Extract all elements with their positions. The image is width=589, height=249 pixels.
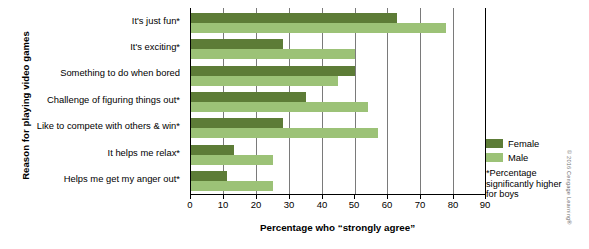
legend-label-female: Female [508,138,539,149]
category-label: It's exciting* [16,42,180,52]
legend-swatch-male-icon [486,153,503,162]
bar-male [191,155,273,165]
x-tick-label: 70 [405,199,435,210]
x-tick-label: 90 [470,199,500,210]
category-label: Something to do when bored [16,68,180,78]
bar-female [191,92,306,102]
gridline [322,8,323,194]
x-axis-title: Percentage who “strongly agree” [190,222,485,233]
x-tick-label: 0 [175,199,205,210]
category-label: It helps me relax* [16,148,180,158]
bar-female [191,39,283,49]
bar-male [191,23,446,33]
bar-female [191,171,227,181]
plot-area [190,8,486,195]
bar-female [191,66,355,76]
gridline [420,8,421,194]
x-tick-label: 20 [241,199,271,210]
x-tick-label: 80 [438,199,468,210]
x-tick-label: 50 [339,199,369,210]
legend-item-female: Female [486,138,582,149]
x-tick-label: 40 [307,199,337,210]
copyright-notice: © 2016 Cengage Learning® [566,150,572,225]
x-tick-label: 10 [208,199,238,210]
category-label-list: It's just fun* It's exciting* Something … [18,8,184,194]
category-label: Helps me get my anger out* [16,174,180,184]
gridline [453,8,454,194]
bar-male [191,76,338,86]
gridline [355,8,356,194]
bar-male [191,181,273,191]
bar-male [191,128,378,138]
bar-female [191,13,397,23]
bar-chart-figure: Reason for playing video games It's just… [0,0,589,249]
category-label: It's just fun* [16,16,180,26]
x-axis-ticks: 0 10 20 30 40 50 60 70 80 90 [190,195,490,211]
bar-female [191,118,283,128]
category-label: Like to compete with others & win* [16,121,180,131]
x-tick-label: 30 [274,199,304,210]
bar-male [191,49,355,59]
legend-swatch-female-icon [486,139,503,148]
category-label: Challenge of figuring things out* [16,95,180,105]
legend-label-male: Male [508,152,528,163]
x-tick-label: 60 [372,199,402,210]
gridline [387,8,388,194]
bar-male [191,102,368,112]
bar-female [191,145,234,155]
